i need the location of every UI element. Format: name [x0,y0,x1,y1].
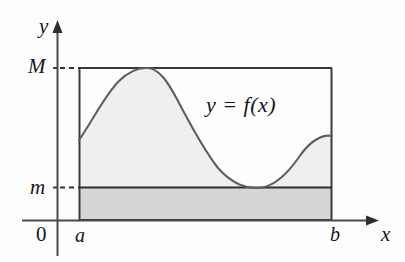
lower-shaded-band [79,188,332,221]
function-equation-label: y = f(x) [206,94,276,116]
max-value-label: M [28,56,46,77]
interval-start-label: a [75,225,85,245]
x-axis-label: x [381,224,390,245]
x-axis-arrowhead [366,216,379,226]
origin-label: 0 [36,224,47,245]
y-axis-label: y [39,16,48,37]
y-axis-arrowhead [53,20,63,33]
bounded-function-diagram [0,0,405,262]
min-value-label: m [30,177,45,198]
area-under-curve [79,68,332,188]
interval-end-label: b [330,224,340,244]
figure-container: y x M m 0 a b y = f(x) [0,0,405,262]
